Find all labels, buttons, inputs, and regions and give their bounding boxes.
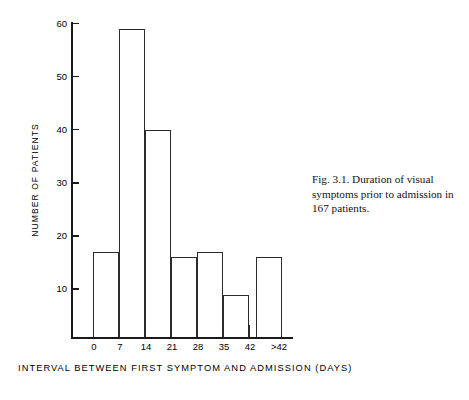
y-tick-label: 20 [45, 230, 67, 241]
x-axis-line [71, 337, 293, 339]
bar-14-21 [145, 130, 171, 337]
x-tick-mark [119, 325, 120, 337]
x-tick-mark [249, 325, 250, 337]
x-tick-mark [223, 325, 224, 337]
y-tick-mark [73, 288, 79, 290]
x-tick-mark [171, 325, 172, 337]
x-tick-label: >42 [264, 341, 294, 352]
histogram-plot: NUMBER OF PATIENTS 10 20 30 40 50 60 [0, 0, 320, 400]
bar-35-42 [223, 295, 249, 338]
y-tick-label: 50 [45, 71, 67, 82]
y-axis-line [71, 22, 73, 339]
y-tick-label: 40 [45, 124, 67, 135]
figure-caption: Fig. 3.1. Duration of visual symptoms pr… [312, 172, 460, 216]
y-axis-title: NUMBER OF PATIENTS [30, 100, 40, 260]
y-tick-mark [73, 23, 79, 25]
x-axis-title: INTERVAL BETWEEN FIRST SYMPTOM AND ADMIS… [18, 363, 352, 373]
x-tick-label: 42 [235, 341, 265, 352]
bar-over-42 [256, 257, 282, 337]
x-tick-mark [93, 325, 94, 337]
y-tick-label: 60 [45, 18, 67, 29]
figure-root: NUMBER OF PATIENTS 10 20 30 40 50 60 [0, 0, 469, 400]
y-tick-label: 10 [45, 283, 67, 294]
x-tick-mark [197, 325, 198, 337]
y-tick-mark [73, 76, 79, 78]
y-tick-mark [73, 235, 79, 237]
bar-0-7 [93, 252, 119, 337]
bar-7-14 [119, 29, 145, 337]
x-tick-mark [145, 325, 146, 337]
bar-21-28 [171, 257, 197, 337]
y-tick-label: 30 [45, 177, 67, 188]
y-tick-mark [73, 129, 79, 131]
bar-28-35 [197, 252, 223, 337]
y-tick-mark [73, 182, 79, 184]
